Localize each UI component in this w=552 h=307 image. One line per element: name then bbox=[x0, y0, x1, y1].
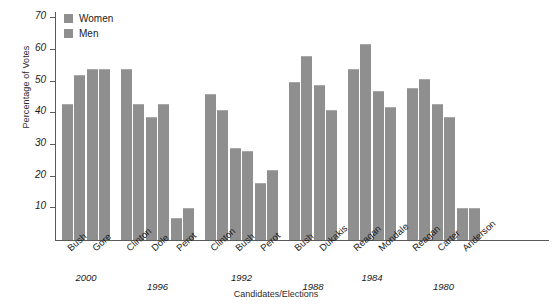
legend-item: Men bbox=[64, 26, 113, 41]
y-axis-tick-label: 40 bbox=[35, 105, 46, 116]
legend: WomenMen bbox=[64, 11, 113, 41]
plot-area: 10203040506070 bbox=[55, 12, 549, 240]
bar-men-carter bbox=[444, 117, 455, 241]
y-axis-tick: 60 bbox=[50, 49, 55, 50]
bar-women-perot bbox=[171, 218, 182, 240]
x-axis-year-label: 2000 bbox=[75, 272, 96, 283]
bar-men-bush bbox=[74, 75, 85, 240]
bar-women-carter bbox=[432, 104, 443, 240]
y-axis-tick-label: 70 bbox=[35, 10, 46, 21]
y-axis-tick-label: 50 bbox=[35, 74, 46, 85]
bar-men-gore bbox=[99, 69, 110, 240]
bar-men-bush bbox=[301, 56, 312, 240]
legend-label: Men bbox=[79, 28, 98, 39]
bar-women-mondale bbox=[373, 91, 384, 240]
y-axis-title: Percentage of Votes bbox=[21, 7, 31, 167]
bar-men-mondale bbox=[385, 107, 396, 240]
bar-women-perot bbox=[255, 183, 266, 240]
bar-men-bush bbox=[242, 151, 253, 240]
y-axis-tick-label: 10 bbox=[35, 200, 46, 211]
bar-men-dole bbox=[158, 104, 169, 240]
legend-item: Women bbox=[64, 11, 113, 26]
bar-women-bush bbox=[62, 104, 73, 240]
x-axis-year-label: 1984 bbox=[361, 272, 382, 283]
y-axis-tick-label: 20 bbox=[35, 169, 46, 180]
y-axis-tick: 30 bbox=[50, 144, 55, 145]
bar-women-dukakis bbox=[314, 85, 325, 240]
bar-women-reagan bbox=[407, 88, 418, 240]
bar-men-reagan bbox=[360, 44, 371, 240]
legend-label: Women bbox=[79, 13, 113, 24]
bar-men-reagan bbox=[419, 79, 430, 241]
y-axis-line bbox=[55, 12, 56, 240]
bar-chart: Percentage of Votes 10203040506070 BushG… bbox=[0, 0, 552, 307]
bar-women-gore bbox=[87, 69, 98, 240]
y-axis-tick: 70 bbox=[50, 17, 55, 18]
bar-women-reagan bbox=[348, 69, 359, 240]
bar-men-dukakis bbox=[326, 110, 337, 240]
y-axis-tick: 10 bbox=[50, 207, 55, 208]
y-axis-tick: 40 bbox=[50, 112, 55, 113]
bar-women-dole bbox=[146, 117, 157, 241]
bar-men-perot bbox=[267, 170, 278, 240]
bar-women-bush bbox=[289, 82, 300, 240]
y-axis-tick: 50 bbox=[50, 81, 55, 82]
y-axis-tick-label: 60 bbox=[35, 42, 46, 53]
x-axis-year-label: 1992 bbox=[231, 272, 252, 283]
x-axis-title: Candidates/Elections bbox=[0, 289, 552, 299]
bar-women-clinton bbox=[205, 94, 216, 240]
y-axis-tick-label: 30 bbox=[35, 137, 46, 148]
legend-swatch-men bbox=[64, 29, 73, 38]
legend-swatch-women bbox=[64, 14, 73, 23]
bar-men-clinton bbox=[217, 110, 228, 240]
y-axis-tick: 20 bbox=[50, 176, 55, 177]
bar-women-clinton bbox=[121, 69, 132, 240]
bar-men-clinton bbox=[133, 104, 144, 240]
